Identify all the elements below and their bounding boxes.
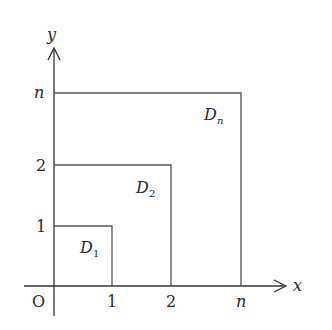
svg-text:n: n (217, 115, 223, 126)
region-label-d1: D 1 (79, 238, 99, 259)
origin-label: O (32, 292, 45, 311)
x-tick-2: 2 (166, 292, 176, 311)
region-label-dn: D n (203, 105, 223, 126)
y-axis-label: y (46, 25, 57, 44)
svg-text:D: D (203, 105, 217, 124)
svg-text:2: 2 (149, 188, 155, 199)
svg-text:1: 1 (93, 248, 99, 259)
squares-diagram: x y O 1 2 n 1 2 n D 1 D 2 D n (0, 0, 332, 330)
x-tick-n: n (236, 292, 246, 311)
y-tick-1: 1 (36, 217, 46, 236)
svg-text:D: D (135, 178, 149, 197)
y-tick-n: n (34, 83, 44, 102)
x-tick-1: 1 (107, 292, 117, 311)
region-label-d2: D 2 (135, 178, 155, 199)
svg-text:D: D (79, 238, 93, 257)
x-axis-label: x (293, 276, 302, 295)
y-tick-2: 2 (36, 156, 46, 175)
